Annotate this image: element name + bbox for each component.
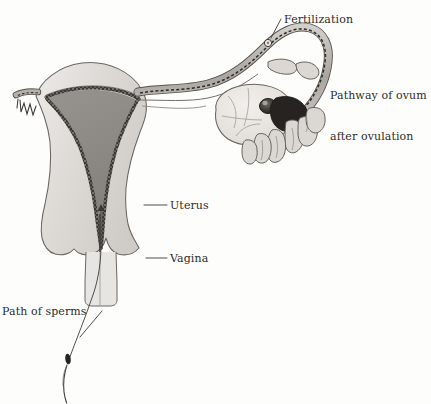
fimbriae-left (17, 99, 36, 115)
ovum (264, 39, 271, 46)
label-pathway-line1: Pathway of ovum (330, 89, 427, 103)
label-path-of-sperms: Path of sperms (2, 305, 87, 319)
vagina (85, 252, 117, 306)
label-pathway-of-ovum: Pathway of ovum after ovulation (330, 62, 427, 170)
label-pathway-line2: after ovulation (330, 130, 427, 144)
fallopian-tube-left (16, 92, 38, 96)
label-uterus: Uterus (170, 199, 209, 213)
sperm (63, 353, 72, 403)
label-vagina: Vagina (170, 252, 208, 266)
reproductive-tract-figure: Fertilization Pathway of ovum after ovul… (0, 0, 431, 404)
label-fertilization: Fertilization (284, 13, 353, 27)
sperm-tail (64, 365, 67, 403)
anatomy-illustration (0, 0, 431, 404)
